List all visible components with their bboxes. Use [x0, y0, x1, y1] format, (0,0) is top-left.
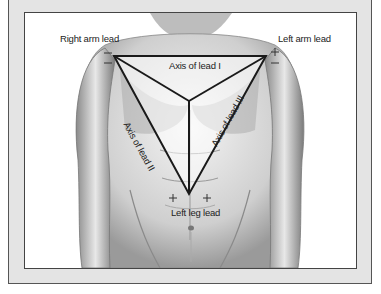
- axis-lead-1-label: Axis of lead I: [169, 60, 221, 71]
- torso-illustration: [0, 0, 381, 294]
- left-arm-lead-label: Left arm lead: [278, 33, 331, 44]
- left-leg-lead-label: Left leg lead: [171, 207, 220, 218]
- right-arm-lead-label: Right arm lead: [60, 33, 119, 44]
